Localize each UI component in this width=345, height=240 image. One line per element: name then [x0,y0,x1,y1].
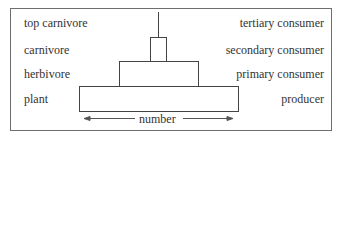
axis-label-number: number [139,112,176,126]
left-arrowhead-icon [84,117,90,121]
right-arrowhead-icon [227,117,233,121]
